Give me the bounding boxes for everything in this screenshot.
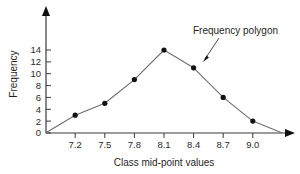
x-tick-label: 7.8	[128, 139, 141, 150]
y-tick-label: 10	[30, 68, 41, 79]
y-tick-label: 2	[36, 116, 41, 127]
x-tick-label: 8.4	[187, 139, 200, 150]
frequency-polygon-chart: 0 2 4 6 8 10 12 14 7.2 7.5 7.8 8.1 8.4 8…	[0, 0, 300, 174]
y-tick-label: 4	[36, 104, 41, 115]
y-tick-label: 6	[36, 92, 41, 103]
y-tick-label: 8	[36, 80, 41, 91]
data-point	[250, 119, 255, 124]
data-point	[221, 95, 226, 100]
x-tick-label: 9.0	[246, 139, 259, 150]
x-tick-label: 8.7	[217, 139, 230, 150]
chart-canvas: 0 2 4 6 8 10 12 14 7.2 7.5 7.8 8.1 8.4 8…	[0, 0, 300, 174]
x-axis-title: Class mid-point values	[114, 157, 215, 168]
data-point	[132, 77, 137, 82]
x-tick-label: 7.5	[98, 139, 111, 150]
data-point	[102, 101, 107, 106]
y-tick-label: 14	[30, 44, 41, 55]
y-tick-label: 12	[30, 56, 41, 67]
data-point	[161, 47, 166, 52]
y-axis-title: Frequency	[8, 50, 19, 97]
x-tick-label: 7.2	[69, 139, 82, 150]
x-tick-label: 8.1	[157, 139, 170, 150]
data-point	[73, 113, 78, 118]
annotation-label: Frequency polygon	[193, 25, 278, 36]
data-point	[191, 65, 196, 70]
y-tick-label: 0	[36, 127, 41, 138]
